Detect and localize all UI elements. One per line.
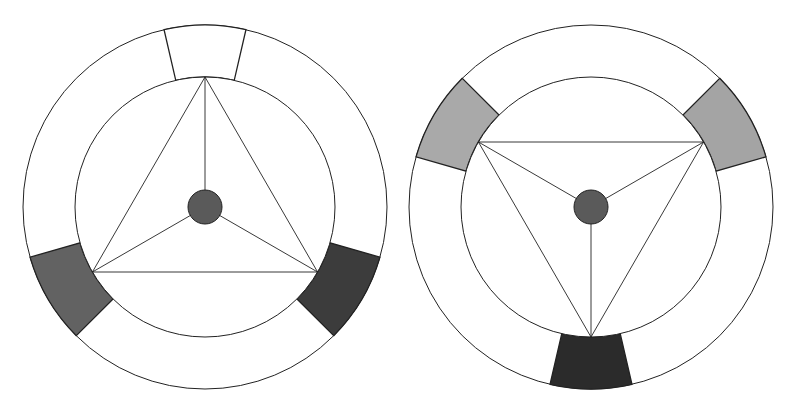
- center-dot: [574, 190, 608, 224]
- diagram-canvas: [0, 0, 793, 406]
- left-color-wheel: [23, 25, 387, 389]
- right-color-wheel: [409, 25, 773, 389]
- top-segment: [164, 25, 246, 80]
- bottom-segment: [550, 334, 632, 389]
- center-dot: [188, 190, 222, 224]
- color-wheel-diagram: [0, 0, 793, 406]
